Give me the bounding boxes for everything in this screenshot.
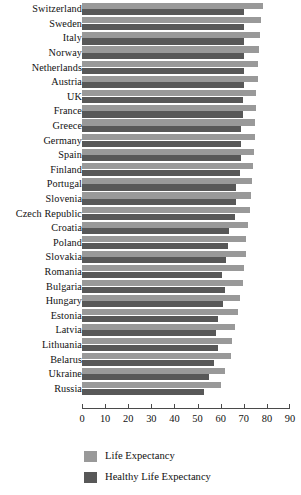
bar-life-expectancy [82, 3, 263, 9]
x-axis-tick-label: 90 [285, 411, 295, 427]
bar-healthy-life-expectancy [82, 272, 222, 278]
category-label: Ukraine [48, 369, 82, 379]
bar-healthy-life-expectancy [82, 24, 244, 30]
bar-row: Netherlands [0, 60, 301, 75]
bar-pair [82, 31, 301, 46]
category-label: UK [67, 92, 82, 102]
bar-healthy-life-expectancy [82, 170, 240, 176]
bar-healthy-life-expectancy [82, 155, 241, 161]
bar-row: UK [0, 90, 301, 105]
x-axis-tick-labels: 0102030405060708090 [82, 411, 290, 427]
bar-row: Finland [0, 163, 301, 178]
bar-life-expectancy [82, 353, 231, 359]
bar-life-expectancy [82, 338, 232, 344]
category-label: Estonia [51, 311, 82, 321]
x-axis-line [82, 408, 290, 409]
bar-healthy-life-expectancy [82, 9, 244, 15]
legend-label: Healthy Life Expectancy [105, 472, 211, 483]
bar-life-expectancy [82, 178, 252, 184]
bar-row: Estonia [0, 308, 301, 323]
x-axis-tick [267, 404, 268, 408]
bar-healthy-life-expectancy [82, 82, 244, 88]
bar-healthy-life-expectancy [82, 214, 235, 220]
bar-pair [82, 104, 301, 119]
bar-life-expectancy [82, 134, 255, 140]
bar-healthy-life-expectancy [82, 345, 218, 351]
bar-row: Poland [0, 236, 301, 251]
x-axis-tick-label: 80 [262, 411, 272, 427]
bar-life-expectancy [82, 61, 258, 67]
x-axis-tick-label: 10 [100, 411, 110, 427]
bar-life-expectancy [82, 46, 259, 52]
category-label: Netherlands [32, 63, 82, 73]
bar-row: Russia [0, 381, 301, 396]
bar-row: Germany [0, 133, 301, 148]
bar-healthy-life-expectancy [82, 330, 216, 336]
bar-life-expectancy [82, 251, 246, 257]
category-label: Greece [53, 121, 82, 131]
x-axis-tick-label: 30 [146, 411, 156, 427]
bar-life-expectancy [82, 119, 255, 125]
bar-life-expectancy [82, 90, 256, 96]
legend-swatch-icon [84, 472, 97, 483]
bar-life-expectancy [82, 192, 251, 198]
category-label: Austria [51, 77, 82, 87]
bar-pair [82, 367, 301, 382]
category-label: Switzerland [32, 4, 82, 14]
bar-pair [82, 17, 301, 32]
category-label: Germany [43, 136, 82, 146]
category-label: Slovenia [46, 194, 82, 204]
category-label: Poland [53, 238, 82, 248]
bar-pair [82, 236, 301, 251]
x-axis-tick [289, 404, 290, 408]
bar-healthy-life-expectancy [82, 126, 241, 132]
bar-life-expectancy [82, 324, 235, 330]
legend-item-life-expectancy: Life Expectancy [84, 446, 211, 467]
bar-row: Austria [0, 75, 301, 90]
bar-pair [82, 192, 301, 207]
bar-healthy-life-expectancy [82, 301, 223, 307]
bar-row: Portugal [0, 177, 301, 192]
category-label: Norway [49, 48, 82, 58]
bar-pair [82, 90, 301, 105]
bar-life-expectancy [82, 265, 244, 271]
bar-life-expectancy [82, 149, 254, 155]
x-axis-tick-label: 70 [239, 411, 249, 427]
bar-row: Slovenia [0, 192, 301, 207]
bar-row: Slovakia [0, 250, 301, 265]
bar-life-expectancy [82, 222, 248, 228]
bar-row: Spain [0, 148, 301, 163]
legend-label: Life Expectancy [105, 451, 175, 462]
bar-pair [82, 119, 301, 134]
category-label: Finland [50, 165, 82, 175]
bar-pair [82, 177, 301, 192]
life-expectancy-bar-chart: SwitzerlandSwedenItalyNorwayNetherlandsA… [0, 0, 301, 495]
bar-pair [82, 75, 301, 90]
bar-pair [82, 60, 301, 75]
x-axis-tick [82, 404, 83, 408]
category-label: Russia [54, 384, 82, 394]
bar-life-expectancy [82, 280, 243, 286]
category-label: France [54, 106, 82, 116]
category-label: Latvia [55, 325, 82, 335]
bar-healthy-life-expectancy [82, 68, 244, 74]
bar-rows: SwitzerlandSwedenItalyNorwayNetherlandsA… [0, 2, 301, 396]
bar-healthy-life-expectancy [82, 287, 225, 293]
bar-life-expectancy [82, 76, 258, 82]
x-axis-tick [174, 404, 175, 408]
bar-life-expectancy [82, 17, 261, 23]
category-label: Belarus [50, 354, 82, 364]
category-label: Croatia [51, 223, 82, 233]
bar-pair [82, 148, 301, 163]
x-axis-tick [198, 404, 199, 408]
bar-row: Bulgaria [0, 279, 301, 294]
bar-life-expectancy [82, 295, 240, 301]
bar-healthy-life-expectancy [82, 141, 241, 147]
bar-life-expectancy [82, 382, 221, 388]
bar-row: Sweden [0, 17, 301, 32]
category-label: Spain [58, 150, 82, 160]
bar-healthy-life-expectancy [82, 389, 204, 395]
bar-row: Czech Republic [0, 206, 301, 221]
bar-row: Italy [0, 31, 301, 46]
bar-row: Greece [0, 119, 301, 134]
